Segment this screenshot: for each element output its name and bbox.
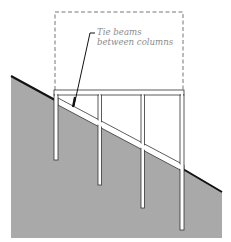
hillside-ground — [11, 76, 222, 238]
building-envelope-dashed — [55, 12, 183, 90]
annotation-line-1: Tie beams — [97, 27, 173, 37]
leader-arrow-tip — [73, 97, 75, 107]
annotation-line-2: between columns — [97, 37, 173, 47]
tie-beams-annotation: Tie beams between columns — [97, 27, 173, 47]
